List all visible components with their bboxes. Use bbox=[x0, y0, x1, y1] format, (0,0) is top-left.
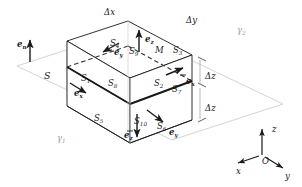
vector-label-en-sub: n bbox=[22, 44, 26, 50]
diagram-canvas bbox=[0, 0, 302, 187]
vector-label-en: en bbox=[17, 40, 27, 50]
point-label-M: M bbox=[155, 46, 164, 55]
vector-label-ez-bottom: ez bbox=[124, 131, 133, 141]
vector-label-ex-left-sub: x bbox=[79, 93, 82, 99]
vector-label-ez-top-sub: z bbox=[150, 39, 153, 45]
surface-label-s2-sub: 2 bbox=[160, 83, 164, 89]
vector-label-ex-left: ex bbox=[74, 89, 83, 99]
surface-label-s1-sub: 1 bbox=[87, 78, 91, 84]
region-label-gamma2-sub: 2 bbox=[242, 30, 246, 36]
surface-label-s3: S3 bbox=[173, 46, 182, 56]
surface-label-s9: S9 bbox=[129, 47, 138, 57]
surface-label-s6-sub: 6 bbox=[163, 126, 167, 132]
coordinate-axes bbox=[238, 129, 283, 168]
surface-label-s7-sub: 7 bbox=[178, 89, 182, 95]
dimension-label-delta-z-upper: Δz bbox=[205, 72, 216, 81]
vector-label-ez-top: ez bbox=[145, 35, 154, 45]
vector-label-ez-bottom-sub: z bbox=[129, 135, 132, 141]
axis-label-z: z bbox=[272, 125, 276, 134]
surface-label-s2: S2 bbox=[154, 79, 163, 89]
axis-label-y: y bbox=[285, 172, 290, 181]
axis-arrow-x bbox=[238, 156, 259, 163]
vector-label-ey-top: ey bbox=[114, 48, 123, 58]
surface-label-s3-sub: 3 bbox=[179, 50, 183, 56]
dimension-label-delta-x: Δx bbox=[104, 8, 115, 17]
dimension-label-delta-z-lower: Δz bbox=[205, 104, 216, 113]
region-label-gamma1: γ1 bbox=[57, 134, 66, 144]
region-label-gamma1-sub: 1 bbox=[62, 138, 66, 144]
surface-label-s7: S7 bbox=[172, 85, 181, 95]
surface-label-s8: S8 bbox=[108, 79, 117, 89]
surface-label-s5-sub: 5 bbox=[100, 118, 104, 124]
surface-label-s10-sub: 10 bbox=[140, 121, 147, 127]
vector-label-ex-right: ex bbox=[186, 77, 195, 87]
axis-label-x: x bbox=[236, 167, 241, 176]
surface-label-s6: S6 bbox=[157, 122, 166, 132]
surface-label-s10: S10 bbox=[134, 117, 147, 127]
interface-surface-label: S bbox=[44, 71, 51, 81]
surface-label-s5: S5 bbox=[94, 114, 103, 124]
surface-label-s1: S1 bbox=[81, 74, 90, 84]
dimension-label-delta-y: Δy bbox=[186, 16, 197, 25]
surface-label-s8-sub: 8 bbox=[114, 83, 118, 89]
vector-label-ey-bottom: ey bbox=[169, 128, 178, 138]
vector-label-ey-bottom-sub: y bbox=[174, 132, 177, 138]
region-label-gamma2: γ2 bbox=[237, 26, 246, 36]
vector-label-ex-right-sub: x bbox=[191, 81, 194, 87]
figure-root: Δx Δy Δz Δz γ1 γ2 S M S1 S2 S3 S4 S5 S6 … bbox=[0, 0, 302, 187]
surface-label-s9-sub: 9 bbox=[135, 51, 139, 57]
vector-label-ey-top-sub: y bbox=[119, 52, 122, 58]
axis-label-origin: O bbox=[262, 157, 269, 166]
